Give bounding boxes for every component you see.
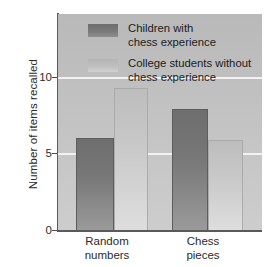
x-tick-label-random-numbers: Random numbers — [70, 234, 144, 262]
bar-children-random-numbers — [76, 138, 114, 230]
legend-swatch-college — [88, 59, 118, 72]
plot-area: Children with chess experience College s… — [58, 14, 262, 230]
legend-swatch-children — [88, 24, 118, 37]
y-axis-ticks: 10 5 0 — [28, 0, 52, 267]
y-tick-label-10: 10 — [30, 71, 52, 83]
bar-chart-figure: Number of items recalled 10 5 0 Children… — [0, 0, 271, 267]
chart-legend: Children with chess experience College s… — [88, 22, 262, 92]
legend-item-children: Children with chess experience — [88, 22, 262, 49]
bar-college-chess-pieces — [208, 140, 243, 230]
legend-item-college: College students without chess experienc… — [88, 57, 262, 84]
y-tick-label-5: 5 — [30, 147, 52, 159]
y-tick-label-0: 0 — [30, 224, 52, 236]
bar-children-chess-pieces — [172, 109, 208, 230]
legend-label-college: College students without chess experienc… — [128, 57, 262, 84]
x-axis-line — [57, 230, 262, 232]
x-tick-label-chess-pieces: Chess pieces — [170, 234, 236, 262]
legend-label-children: Children with chess experience — [128, 22, 262, 49]
bar-college-random-numbers — [114, 88, 148, 230]
